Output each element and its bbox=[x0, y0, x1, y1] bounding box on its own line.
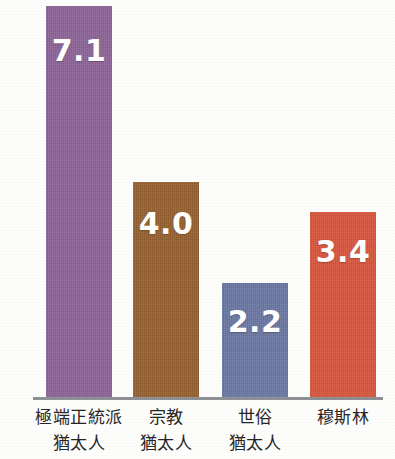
bar-secular-jews bbox=[222, 283, 288, 399]
category-label-3-line1: 穆斯林 bbox=[297, 404, 389, 430]
bar-group-2: 2.2 bbox=[222, 283, 288, 399]
bar-group-1: 4.0 bbox=[133, 182, 199, 399]
bar-value-label-2: 2.2 bbox=[222, 307, 288, 337]
bar-value-label-1: 4.0 bbox=[133, 209, 199, 239]
bar-chart: 7.1 4.0 2.2 3.4 極端正統派 猶太人 宗教 猶太人 世俗 bbox=[0, 0, 395, 459]
bar-value-label-3: 3.4 bbox=[310, 237, 376, 267]
category-axis-labels: 極端正統派 猶太人 宗教 猶太人 世俗 猶太人 穆斯林 bbox=[0, 404, 395, 459]
category-label-2-line1: 世俗 bbox=[201, 404, 309, 430]
bar-group-3: 3.4 bbox=[310, 212, 376, 399]
bar-group-0: 7.1 bbox=[46, 6, 112, 399]
category-label-2-line2: 猶太人 bbox=[201, 430, 309, 456]
bar-value-label-0: 7.1 bbox=[46, 36, 112, 66]
axis-baseline bbox=[33, 397, 383, 400]
category-label-3: 穆斯林 bbox=[297, 404, 389, 430]
category-label-2: 世俗 猶太人 bbox=[201, 404, 309, 456]
plot-area: 7.1 4.0 2.2 3.4 bbox=[0, 0, 395, 399]
